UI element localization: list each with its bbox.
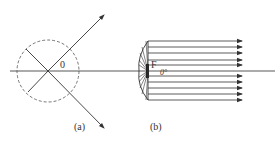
- angle-label-b: 0°: [160, 68, 168, 77]
- panel-b-label: (b): [150, 121, 162, 133]
- panel-a-label: (a): [74, 121, 85, 133]
- diagram-canvas: 0 (a): [0, 0, 277, 145]
- panel-b: F 0° (b): [139, 41, 242, 133]
- panel-a: 0 (a): [17, 15, 104, 133]
- segment-lower-left: [28, 71, 48, 92]
- angle-label-a: 0: [60, 59, 65, 70]
- segment-upper-left: [26, 49, 48, 71]
- ray-upper-right-arrow: [48, 15, 104, 71]
- ray-lower-right-arrow: [48, 71, 104, 128]
- focus-label: F: [151, 59, 157, 70]
